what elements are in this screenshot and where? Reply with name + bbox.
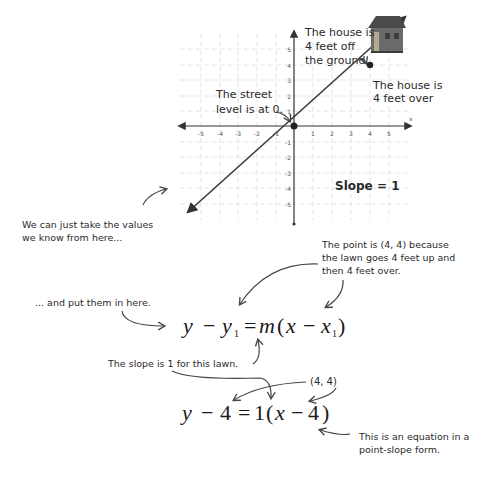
svg-text:-4: -4 bbox=[285, 185, 291, 192]
svg-text:1: 1 bbox=[234, 328, 239, 339]
svg-text:(4, 4): (4, 4) bbox=[310, 376, 337, 387]
svg-text:−: − bbox=[291, 400, 303, 425]
svg-text:4: 4 bbox=[368, 130, 372, 137]
svg-text:-4: -4 bbox=[217, 130, 223, 137]
svg-text:then 4 feet over.: then 4 feet over. bbox=[322, 265, 401, 276]
svg-text:1: 1 bbox=[311, 130, 315, 137]
svg-text:x: x bbox=[274, 400, 285, 425]
svg-text:4: 4 bbox=[220, 400, 231, 425]
note-house-height: The house is 4 feet off the ground. bbox=[304, 26, 375, 67]
y-tick-labels: 5 4 3 2 1 -1 -2 -3 -4 -5 bbox=[285, 46, 291, 208]
svg-text:4 feet off: 4 feet off bbox=[305, 40, 355, 53]
note-house-over: The house is 4 feet over bbox=[372, 79, 443, 105]
x-axis-label: x bbox=[409, 115, 413, 122]
svg-text:y: y bbox=[220, 313, 232, 338]
svg-text:This is an equation in a: This is an equation in a bbox=[358, 431, 469, 442]
svg-text:5: 5 bbox=[387, 130, 391, 137]
svg-text:-1: -1 bbox=[285, 139, 291, 146]
svg-text:2: 2 bbox=[330, 130, 334, 137]
svg-text:2: 2 bbox=[287, 93, 291, 100]
svg-text:point-slope form.: point-slope form. bbox=[359, 444, 440, 455]
svg-text:−: − bbox=[201, 400, 213, 425]
svg-text:3: 3 bbox=[349, 130, 353, 137]
svg-text:=: = bbox=[238, 400, 250, 425]
svg-text:The house is: The house is bbox=[304, 26, 375, 39]
svg-text:-2: -2 bbox=[285, 154, 291, 161]
svg-text:5: 5 bbox=[287, 46, 291, 53]
svg-text:-3: -3 bbox=[235, 130, 241, 137]
svg-text:4 feet over: 4 feet over bbox=[373, 92, 434, 105]
svg-text:=: = bbox=[244, 313, 256, 338]
svg-text:The point is (4, 4) because: The point is (4, 4) because bbox=[321, 239, 449, 250]
note-slope-is: The slope is 1 for this lawn. bbox=[107, 340, 271, 398]
note-point-is: The point is (4, 4) because the lawn goe… bbox=[240, 239, 455, 307]
svg-text:we know from here...: we know from here... bbox=[22, 232, 122, 243]
svg-text:): ) bbox=[338, 313, 345, 338]
svg-text:The slope is 1 for this lawn.: The slope is 1 for this lawn. bbox=[107, 358, 238, 369]
svg-text:-5: -5 bbox=[285, 201, 291, 208]
svg-text:x: x bbox=[320, 313, 331, 338]
origin-point bbox=[291, 123, 298, 130]
note-street-level: The street level is at 0. bbox=[215, 88, 290, 121]
svg-text:The house is: The house is bbox=[372, 79, 443, 92]
note-equation-form: This is an equation in a point-slope for… bbox=[320, 430, 469, 455]
note-pair: (4, 4) bbox=[234, 376, 337, 401]
svg-text:the ground.: the ground. bbox=[305, 54, 369, 67]
svg-text:4: 4 bbox=[308, 400, 319, 425]
svg-text:m: m bbox=[259, 313, 275, 338]
svg-text:1: 1 bbox=[254, 400, 265, 425]
point-slope-specific-equation: y − 4 = 1 ( x − 4 ) bbox=[180, 400, 329, 425]
svg-text:3: 3 bbox=[287, 77, 291, 84]
svg-text:... and put them in here.: ... and put them in here. bbox=[35, 297, 151, 308]
svg-text:(: ( bbox=[266, 400, 273, 425]
svg-text:x: x bbox=[285, 313, 296, 338]
page-canvas: x -5 -4 -3 -2 -1 1 2 3 4 5 5 4 3 2 1 -1 … bbox=[0, 0, 490, 484]
svg-text:): ) bbox=[322, 400, 329, 425]
svg-text:y: y bbox=[181, 313, 193, 338]
point-slope-general-equation: y − y 1 = m ( x − x 1 ) bbox=[181, 313, 345, 339]
svg-text:-3: -3 bbox=[285, 170, 291, 177]
note-put-here: ... and put them in here. bbox=[35, 297, 164, 326]
svg-text:level is at 0.: level is at 0. bbox=[216, 103, 283, 116]
svg-text:The street: The street bbox=[215, 88, 273, 101]
slope-label: Slope = 1 bbox=[335, 179, 400, 193]
svg-text:1: 1 bbox=[287, 108, 291, 115]
svg-text:-5: -5 bbox=[198, 130, 204, 137]
svg-text:We can just take the values: We can just take the values bbox=[22, 219, 153, 230]
svg-text:4: 4 bbox=[287, 62, 291, 69]
svg-text:y: y bbox=[180, 400, 192, 425]
note-take-values: We can just take the values we know from… bbox=[22, 189, 166, 243]
svg-text:−: − bbox=[303, 313, 315, 338]
svg-text:the lawn goes 4 feet up and: the lawn goes 4 feet up and bbox=[322, 252, 455, 263]
svg-text:1: 1 bbox=[332, 328, 337, 339]
svg-text:-2: -2 bbox=[254, 130, 260, 137]
svg-text:−: − bbox=[203, 313, 215, 338]
svg-text:(: ( bbox=[277, 313, 284, 338]
